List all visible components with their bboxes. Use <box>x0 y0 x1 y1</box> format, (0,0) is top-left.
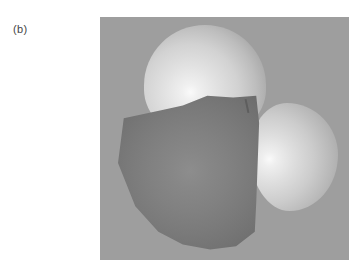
dark-sphere-center <box>118 91 262 251</box>
panel-label: (b) <box>13 23 27 35</box>
rendered-figure <box>100 17 349 260</box>
light-sphere-right <box>250 103 338 211</box>
